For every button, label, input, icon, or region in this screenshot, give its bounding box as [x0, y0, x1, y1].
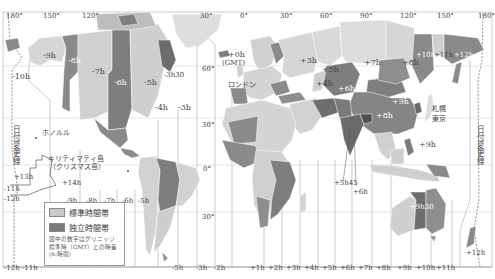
- zone-label: +5h: [322, 66, 339, 74]
- place-label-christmas-island: （クリスマス島）: [49, 164, 105, 171]
- zone-label: +5h45: [334, 180, 358, 187]
- longitude-label: 150°: [43, 13, 60, 20]
- offset-label: +1h: [250, 265, 265, 272]
- legend-item-standard: 標準時間帯: [49, 206, 120, 219]
- latitude-label: 30°: [202, 122, 214, 129]
- place-label-london: ロンドン: [228, 82, 256, 89]
- offset-label: -12h: [4, 265, 20, 272]
- zone-label: -3h30: [164, 72, 184, 79]
- legend-note-line: 標準時（GMT）との時差: [49, 244, 120, 252]
- offset-label: +10h: [416, 265, 435, 272]
- zone-label: -5h: [144, 79, 157, 87]
- dateline-label-west: 日付変更線: [12, 125, 20, 165]
- offset-label: +8h: [376, 265, 391, 272]
- zone-label: +9h: [419, 141, 436, 149]
- offset-label: -3h: [196, 265, 207, 272]
- offset-label: +7h: [358, 265, 373, 272]
- zone-label: -4h: [155, 104, 168, 112]
- zone-label: +13h: [14, 174, 33, 181]
- latitude-label: 30°: [202, 214, 214, 221]
- offset-label: +11h: [436, 265, 455, 272]
- zone-label: +14h: [62, 180, 81, 187]
- longitude-label: 180°: [478, 13, 495, 20]
- zone-label: -3h: [178, 104, 191, 112]
- zone-label: -10h: [12, 73, 30, 81]
- russia-west: [278, 32, 318, 78]
- latitude-label: 0°: [203, 166, 211, 173]
- map-legend: 標準時間帯 独立時間帯 図中の数字はグリニッジ 標準時（GMT）との時差 (h:…: [44, 202, 125, 266]
- longitude-label: 30°: [200, 13, 212, 20]
- longitude-label: 150°: [437, 13, 454, 20]
- madagascar: [300, 192, 306, 214]
- longitude-label: 120°: [400, 13, 417, 20]
- latitude-label: 60°: [202, 66, 214, 73]
- zone-label: +6h: [353, 189, 368, 196]
- offset-label: -5h: [138, 198, 149, 205]
- zone-label: +0h: [228, 51, 245, 59]
- zone-label: -12h: [4, 196, 20, 203]
- place-label-kiritimati: キリティマティ島: [48, 156, 104, 163]
- longitude-label: 60°: [320, 13, 332, 20]
- zone-label: (GMT): [222, 60, 245, 67]
- zone-label: -7h: [92, 68, 105, 76]
- place-label-honolulu: ホノルル: [42, 130, 70, 137]
- standard-zone-swatch-icon: [49, 208, 65, 217]
- longitude-label: 120°: [82, 13, 99, 20]
- zone-label: +9h: [392, 98, 409, 106]
- legend-note-line: 図中の数字はグリニッジ: [49, 236, 120, 244]
- zone-label: +12h: [466, 250, 485, 257]
- longitude-label: 30°: [280, 13, 292, 20]
- zone-label: +12h: [454, 52, 473, 59]
- zone-label: +3h: [300, 57, 317, 65]
- zone-label: -9h: [43, 52, 56, 60]
- zone-label: +10h: [416, 52, 435, 59]
- zone-label: -8h: [68, 57, 81, 65]
- zone-label: -11h: [4, 186, 20, 193]
- longitude-label: 90°: [360, 13, 372, 20]
- zone-label: +7h: [364, 59, 381, 67]
- offset-label: +5h: [322, 265, 337, 272]
- offset-label: +4h: [304, 265, 319, 272]
- zone-label: +11h: [434, 52, 453, 59]
- longitude-label: 0°: [240, 13, 248, 20]
- legend-label: 標準時間帯: [69, 207, 109, 218]
- zone-label: +4h: [316, 80, 333, 88]
- offset-label: -2h: [214, 265, 225, 272]
- offset-label: +6h: [340, 265, 355, 272]
- independent-zone-swatch-icon: [49, 223, 65, 232]
- offset-label: +3h: [286, 265, 301, 272]
- offset-label: -5h: [172, 265, 183, 272]
- longitude-label: 180°: [6, 13, 23, 20]
- legend-label: 独立時間帯: [69, 222, 109, 233]
- dateline-label-east: 日付変更線: [476, 125, 484, 165]
- offset-label: -11h: [22, 265, 38, 272]
- zone-label: +8h: [402, 59, 419, 67]
- zone-label: +9h30: [410, 204, 434, 211]
- zone-label: +6h: [338, 85, 355, 93]
- place-label-tokyo: 東京: [432, 116, 446, 123]
- offset-label: +9h: [397, 265, 412, 272]
- legend-note: 図中の数字はグリニッジ 標準時（GMT）との時差 (h:時間): [49, 236, 120, 259]
- legend-note-line: (h:時間): [49, 251, 120, 259]
- zone-label: -6h: [114, 79, 127, 87]
- offset-label: +2h: [268, 265, 283, 272]
- place-label-sapporo: 札幌: [432, 106, 446, 113]
- legend-item-independent: 独立時間帯: [49, 221, 120, 234]
- zone-label: +8h: [376, 112, 393, 120]
